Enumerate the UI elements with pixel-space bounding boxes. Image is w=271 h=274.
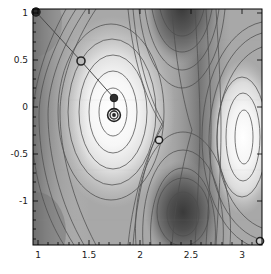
x-tick-label-4: 3 [239,250,245,260]
contour-plot-figure: 1 1.5 2 2.5 3 1 0.5 0 -0.5 -1 [0,0,271,274]
x-tick-label-2: 2 [137,250,143,260]
y-tick-label-0: -1 [19,196,28,206]
y-tick-label-1: -0.5 [10,149,28,159]
x-tick-label-1: 1.5 [82,250,96,260]
marker-point-b[interactable] [256,237,263,244]
marker-step-1[interactable] [77,57,85,65]
x-tick-label-3: 2.5 [184,250,198,260]
contour-plot-svg: 1 1.5 2 2.5 3 1 0.5 0 -0.5 -1 [0,0,271,274]
marker-converged[interactable] [108,109,121,122]
y-tick-label-3: 0.5 [14,55,28,65]
y-tick-label-4: 1 [22,8,28,18]
x-tick-label-0: 1 [35,250,41,260]
contour-field [6,0,271,272]
y-tick-labels: 1 0.5 0 -0.5 -1 [10,8,28,206]
x-tick-labels: 1 1.5 2 2.5 3 [35,250,245,260]
y-tick-label-2: 0 [22,102,28,112]
marker-step-2[interactable] [110,94,118,102]
marker-point-a[interactable] [155,136,162,143]
